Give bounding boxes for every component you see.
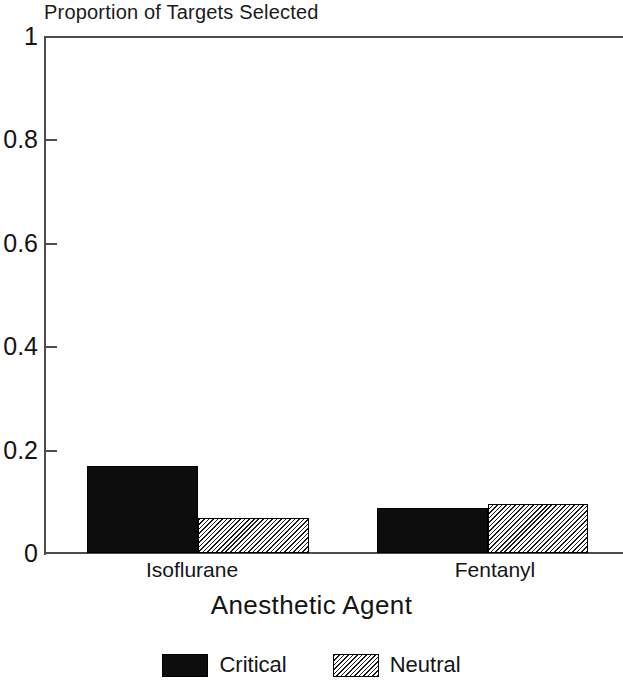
y-tick-label-0.2: 0.2 — [0, 438, 38, 463]
legend-item-neutral: Neutral — [333, 652, 461, 678]
chart-title: Proportion of Targets Selected — [44, 1, 319, 24]
legend-swatch-critical-icon — [162, 654, 208, 677]
y-tick-label-0.8: 0.8 — [0, 127, 38, 152]
legend-label-critical: Critical — [219, 652, 286, 678]
bar-isoflurane-critical — [87, 466, 198, 553]
bar-chart-figure: Proportion of Targets Selected 1 0.8 0.6… — [0, 0, 623, 683]
x-category-label-isoflurane: Isoflurane — [97, 558, 287, 582]
x-category-label-fentanyl: Fentanyl — [400, 558, 590, 582]
chart-legend: Critical Neutral — [0, 652, 623, 678]
y-tick-label-0: 0 — [0, 541, 38, 566]
bar-fentanyl-critical — [377, 508, 488, 553]
y-tick-label-0.4: 0.4 — [0, 334, 38, 359]
plot-area — [44, 36, 623, 553]
y-tick-label-0.6: 0.6 — [0, 231, 38, 256]
legend-item-critical: Critical — [162, 652, 286, 678]
bar-isoflurane-neutral — [198, 518, 309, 553]
bar-fentanyl-neutral — [488, 504, 588, 553]
x-axis-title: Anesthetic Agent — [0, 590, 623, 621]
legend-label-neutral: Neutral — [390, 652, 461, 678]
y-tick-label-1: 1 — [0, 24, 38, 49]
legend-swatch-neutral-icon — [333, 654, 379, 677]
